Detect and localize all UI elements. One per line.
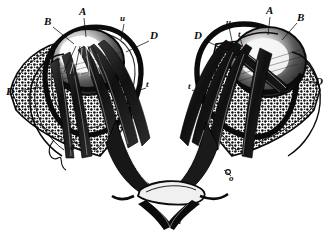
figure-label-d-3: D	[150, 30, 158, 41]
figure-label-b-11: B	[297, 12, 304, 23]
figure-label-b-0: B	[44, 16, 51, 27]
figure-label-a-1: A	[79, 6, 86, 17]
anatomical-figure: BAuDDtaDutABDtom	[0, 0, 329, 235]
figure-label-u-2: u	[120, 14, 125, 23]
figure-label-t-13: t	[188, 82, 191, 91]
optic-chiasm	[138, 181, 205, 204]
figure-label-u-8: u	[226, 18, 231, 27]
figure-label-o-14: o	[229, 174, 234, 183]
figure-label-d-7: D	[194, 30, 202, 41]
figure-label-t-9: t	[238, 30, 241, 39]
figure-label-a-10: A	[266, 5, 273, 16]
engraving-plate	[0, 0, 329, 235]
figure-label-m-15: m	[174, 217, 181, 226]
figure-label-t-5: t	[146, 80, 149, 89]
figure-label-d-12: D	[315, 76, 323, 87]
figure-label-a-6: a	[70, 143, 75, 152]
figure-label-d-4: D	[6, 86, 14, 97]
